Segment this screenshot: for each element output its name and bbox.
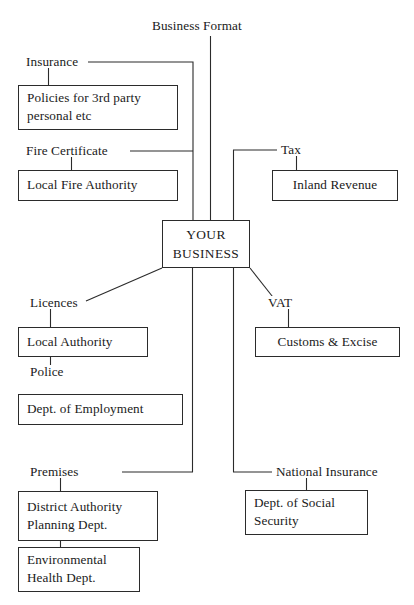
- node-local-authority: Local Authority: [18, 327, 148, 357]
- label-premises-text: Premises: [30, 465, 78, 478]
- node-policies-line2: personal etc: [27, 108, 92, 125]
- node-your-business-line1: YOUR: [186, 226, 226, 243]
- node-environmental-health-line2: Health Dept.: [27, 570, 96, 587]
- label-vat: VAT: [266, 296, 294, 309]
- label-business-format: Business Format: [150, 19, 244, 32]
- label-tax: Tax: [279, 143, 303, 156]
- node-inland-revenue: Inland Revenue: [272, 170, 398, 201]
- node-district-authority-line1: District Authority: [27, 499, 122, 516]
- label-licences-text: Licences: [30, 296, 78, 309]
- node-policies: Policies for 3rd party personal etc: [18, 85, 178, 130]
- label-vat-text: VAT: [268, 296, 292, 309]
- node-environmental-health: Environmental Health Dept.: [18, 547, 140, 592]
- node-dept-social-security-line1: Dept. of Social: [254, 495, 335, 512]
- node-dept-employment: Dept. of Employment: [18, 394, 183, 425]
- node-local-fire-authority: Local Fire Authority: [18, 170, 178, 201]
- node-customs-excise-line1: Customs & Excise: [278, 334, 378, 351]
- node-customs-excise: Customs & Excise: [255, 327, 400, 357]
- connector-tax: [234, 150, 278, 220]
- label-premises: Premises: [28, 465, 80, 478]
- label-national-insurance: National Insurance: [274, 465, 380, 478]
- connector-licences: [86, 268, 162, 301]
- label-police-text: Police: [30, 365, 64, 378]
- label-police: Police: [28, 365, 66, 378]
- node-local-authority-line1: Local Authority: [27, 334, 112, 351]
- label-fire-certificate-text: Fire Certificate: [26, 144, 108, 157]
- label-insurance-text: Insurance: [26, 55, 78, 68]
- node-dept-social-security-line2: Security: [254, 513, 299, 530]
- label-business-format-text: Business Format: [152, 19, 242, 32]
- label-tax-text: Tax: [281, 143, 301, 156]
- label-fire-certificate: Fire Certificate: [24, 144, 110, 157]
- node-policies-line1: Policies for 3rd party: [27, 90, 141, 107]
- node-district-authority-line2: Planning Dept.: [27, 517, 108, 534]
- node-local-fire-authority-line1: Local Fire Authority: [27, 177, 137, 194]
- node-your-business: YOUR BUSINESS: [162, 220, 250, 268]
- node-dept-employment-line1: Dept. of Employment: [27, 401, 144, 418]
- label-insurance: Insurance: [24, 55, 80, 68]
- label-licences: Licences: [28, 296, 80, 309]
- node-district-authority: District Authority Planning Dept.: [18, 491, 158, 541]
- node-environmental-health-line1: Environmental: [27, 552, 107, 569]
- node-your-business-line2: BUSINESS: [173, 245, 239, 262]
- label-national-insurance-text: National Insurance: [276, 465, 378, 478]
- business-format-diagram: Business Format Insurance Fire Certifica…: [0, 0, 414, 605]
- node-dept-social-security: Dept. of Social Security: [245, 490, 368, 535]
- node-inland-revenue-line1: Inland Revenue: [293, 177, 378, 194]
- connector-premises: [122, 268, 193, 472]
